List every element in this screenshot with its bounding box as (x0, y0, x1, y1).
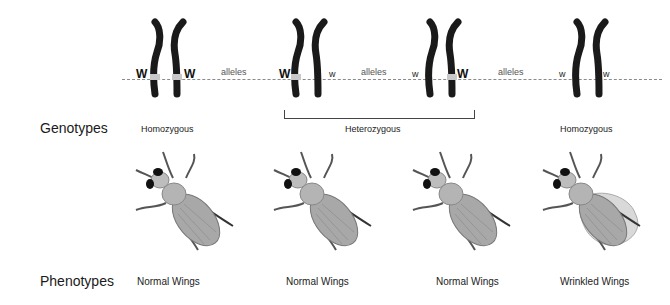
alleles-connector: alleles (498, 67, 524, 77)
chromosome-pair-3 (420, 18, 470, 98)
allele-label: W (136, 67, 147, 81)
genotype-label: Heterozygous (345, 124, 401, 134)
fly-normal-wings-2 (266, 148, 378, 256)
chromosome-pair-2 (286, 18, 336, 98)
chromosome-pair-1 (145, 18, 195, 98)
allele-label: w (412, 69, 419, 79)
heterozygous-bracket (284, 110, 475, 119)
allele-label: w (329, 69, 336, 79)
phenotypes-row-label: Phenotypes (40, 273, 114, 289)
allele-label: w (559, 69, 566, 79)
phenotype-label: Normal Wings (436, 276, 499, 287)
allele-label: W (279, 67, 290, 81)
fly-normal-wings-3 (405, 148, 517, 256)
allele-label: w (603, 69, 610, 79)
phenotype-label: Normal Wings (286, 276, 349, 287)
phenotype-label: Wrinkled Wings (560, 276, 629, 287)
allele-label: W (184, 67, 195, 81)
fly-wrinkled-wings (535, 148, 655, 256)
phenotype-label: Normal Wings (137, 276, 200, 287)
alleles-connector: alleles (221, 67, 247, 77)
genotype-label: Homozygous (141, 124, 194, 134)
genotypes-row-label: Genotypes (40, 120, 108, 136)
genotype-label: Homozygous (560, 124, 613, 134)
allele-label: W (457, 67, 468, 81)
alleles-connector: alleles (361, 67, 387, 77)
fly-normal-wings-1 (128, 148, 240, 256)
chromosome-pair-4 (567, 18, 617, 98)
